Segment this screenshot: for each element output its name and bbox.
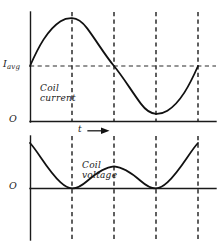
top-panel-group — [30, 12, 216, 122]
waveform-figure: Iavg O Coil current t O Coil voltage — [0, 0, 222, 250]
coil-voltage-label: Coil voltage — [82, 160, 117, 180]
origin-label-top: O — [9, 114, 17, 125]
origin-label-bottom: O — [9, 181, 17, 192]
coil-voltage-label-line1: Coil — [82, 160, 101, 170]
bottom-panel-group — [30, 136, 216, 240]
waveform-canvas — [0, 0, 222, 250]
coil-current-label-line1: Coil — [40, 83, 59, 93]
coil-voltage-label-line2: voltage — [82, 170, 117, 180]
coil-current-label-line2: current — [40, 93, 76, 103]
time-axis-label: t — [78, 124, 82, 134]
coil-current-label: Coil current — [40, 83, 76, 103]
iavg-label: Iavg — [3, 59, 20, 71]
iavg-subscript: avg — [7, 63, 20, 71]
